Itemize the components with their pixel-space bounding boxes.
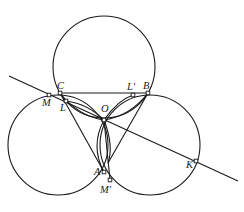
label-L_prime: L' bbox=[126, 81, 136, 92]
seg-BA bbox=[108, 93, 148, 163]
circle-left bbox=[8, 95, 108, 195]
label-C: C bbox=[57, 80, 65, 91]
point-A bbox=[102, 170, 106, 174]
label-K: K bbox=[185, 159, 194, 170]
point-B bbox=[146, 91, 150, 95]
label-A: A bbox=[93, 166, 101, 177]
label-O: O bbox=[101, 103, 109, 114]
label-M: M bbox=[41, 97, 52, 108]
point-M_prime bbox=[108, 178, 112, 182]
circle-right bbox=[100, 95, 200, 195]
line-MK bbox=[9, 76, 238, 181]
point-C bbox=[58, 91, 62, 95]
label-L: L bbox=[59, 102, 66, 113]
geometry-figure: CBMLL'OAM'K bbox=[0, 0, 244, 212]
point-O bbox=[102, 118, 106, 122]
point-L_prime bbox=[131, 93, 135, 97]
arc-O-B-lower bbox=[104, 93, 148, 120]
segments-group bbox=[9, 76, 238, 181]
label-M_prime: M' bbox=[99, 184, 112, 195]
label-B: B bbox=[143, 80, 150, 91]
point-K bbox=[194, 159, 198, 163]
